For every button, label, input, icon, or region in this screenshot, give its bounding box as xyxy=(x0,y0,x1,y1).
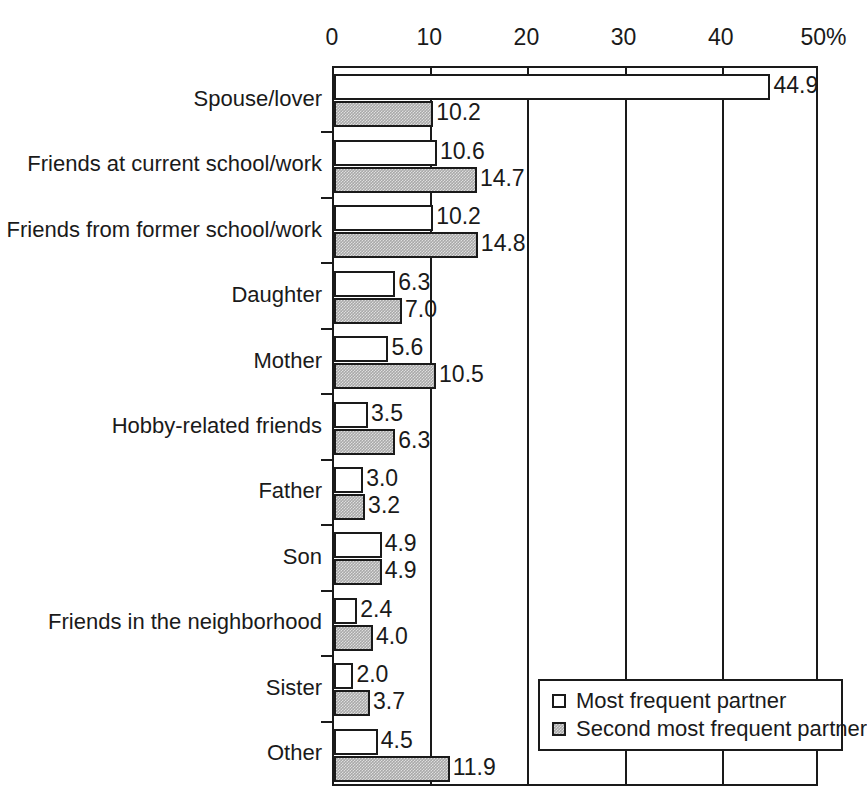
category-tick xyxy=(321,197,332,199)
category-tick xyxy=(321,459,332,461)
legend: Most frequent partner Second most freque… xyxy=(538,679,843,751)
bar xyxy=(334,140,437,166)
category-tick xyxy=(321,721,332,723)
white-square-icon xyxy=(552,694,566,708)
bar xyxy=(334,232,478,258)
category-tick xyxy=(321,590,332,592)
category-label: Friends in the neighborhood xyxy=(48,610,322,634)
gridline xyxy=(527,68,529,784)
category-tick xyxy=(321,328,332,330)
bar-value-label: 2.4 xyxy=(360,597,392,620)
legend-item: Second most frequent partner xyxy=(552,715,831,743)
x-axis-tick-label: 0 xyxy=(326,26,339,49)
category-tick xyxy=(321,655,332,657)
bar-value-label: 44.9 xyxy=(773,74,818,97)
gray-square-icon xyxy=(552,722,566,736)
category-label: Son xyxy=(283,545,322,569)
x-axis-tick-label: 20 xyxy=(514,26,540,49)
category-label: Other xyxy=(267,741,322,765)
category-tick xyxy=(321,131,332,133)
category-label: Sister xyxy=(266,676,322,700)
bar-value-label: 3.0 xyxy=(366,466,398,489)
bar xyxy=(334,167,477,193)
bar xyxy=(334,336,388,362)
bar xyxy=(334,363,436,389)
category-tick xyxy=(321,262,332,264)
gridline xyxy=(722,68,724,784)
bar-value-label: 5.6 xyxy=(391,336,423,359)
bar xyxy=(334,467,363,493)
bar xyxy=(334,559,382,585)
category-label: Father xyxy=(258,479,322,503)
bar-value-label: 6.3 xyxy=(398,270,430,293)
bar xyxy=(334,298,402,324)
bar xyxy=(334,756,450,782)
category-label: Friends at current school/work xyxy=(27,152,322,176)
bar-value-label: 4.5 xyxy=(381,728,413,751)
bar-value-label: 3.7 xyxy=(373,690,405,713)
bar-value-label: 10.6 xyxy=(440,139,485,162)
bar-value-label: 11.9 xyxy=(453,755,496,778)
category-tick xyxy=(321,393,332,395)
category-label: Mother xyxy=(254,349,322,373)
bar-value-label: 14.8 xyxy=(481,232,526,255)
bar-value-label: 6.3 xyxy=(398,428,430,451)
bar xyxy=(334,101,433,127)
bar xyxy=(334,663,353,689)
bar xyxy=(334,625,373,651)
bar xyxy=(334,494,365,520)
bar-value-label: 3.5 xyxy=(371,401,403,424)
category-tick xyxy=(321,524,332,526)
bar-value-label: 7.0 xyxy=(405,297,437,320)
bar-value-label: 4.9 xyxy=(385,532,417,555)
bar xyxy=(334,429,395,455)
bar-value-label: 14.7 xyxy=(480,166,525,189)
legend-item: Most frequent partner xyxy=(552,687,831,715)
bar xyxy=(334,690,370,716)
bar-value-label: 10.2 xyxy=(436,205,481,228)
category-label: Hobby-related friends xyxy=(112,414,322,438)
category-label: Spouse/lover xyxy=(194,87,322,111)
x-axis-tick-label: 10 xyxy=(416,26,442,49)
legend-item-label: Most frequent partner xyxy=(576,690,786,712)
legend-item-label: Second most frequent partner xyxy=(576,718,867,740)
bar-value-label: 2.0 xyxy=(356,663,388,686)
bar xyxy=(334,598,357,624)
bar-value-label: 4.9 xyxy=(385,559,417,582)
bar-value-label: 3.2 xyxy=(368,493,400,516)
category-label: Friends from former school/work xyxy=(7,218,322,242)
bar-value-label: 10.2 xyxy=(436,101,481,124)
x-axis-tick-label: 30 xyxy=(611,26,637,49)
bar xyxy=(334,402,368,428)
bar-value-label: 4.0 xyxy=(376,624,408,647)
bar-value-label: 10.5 xyxy=(439,363,484,386)
bar xyxy=(334,74,770,100)
gridline xyxy=(625,68,627,784)
x-axis-tick-label: 40 xyxy=(708,26,734,49)
bar xyxy=(334,271,395,297)
category-label: Daughter xyxy=(231,283,322,307)
bar xyxy=(334,729,378,755)
bar xyxy=(334,532,382,558)
bar xyxy=(334,205,433,231)
x-axis-tick-label: 50% xyxy=(801,26,847,49)
